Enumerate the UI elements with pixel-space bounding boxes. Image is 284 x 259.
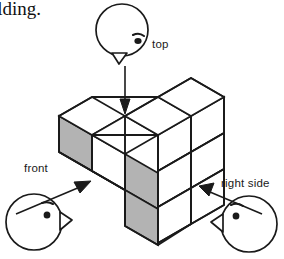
arrow-top-head <box>120 99 130 114</box>
eye-front <box>44 211 51 218</box>
label-front: front <box>24 162 48 174</box>
viewer-head-top <box>96 4 148 64</box>
nose-front <box>60 212 72 230</box>
cube-stack <box>59 78 224 245</box>
viewer-head-front <box>6 194 72 250</box>
eye-top <box>134 38 141 44</box>
head-outline-front <box>6 194 62 250</box>
label-right-side: right side <box>221 177 270 189</box>
arrow-front-head <box>74 181 91 193</box>
nose-top <box>112 53 127 64</box>
eye-right-side <box>233 212 240 219</box>
label-top: top <box>152 38 169 50</box>
head-outline-right-side <box>221 196 277 252</box>
head-outline-top <box>96 4 148 56</box>
isometric-cube-stack-figure <box>0 0 284 259</box>
figure-page: ilding. <box>0 0 284 259</box>
nose-right-side <box>211 214 223 232</box>
arrow-top <box>120 66 130 114</box>
